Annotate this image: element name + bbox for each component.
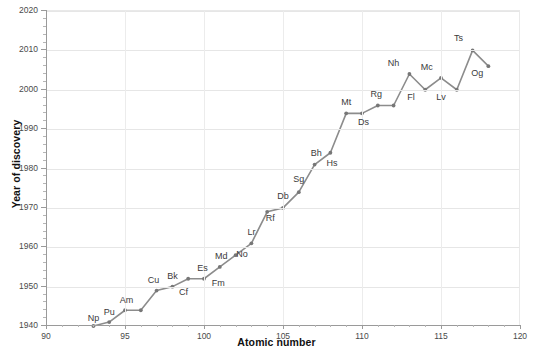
y-tick-minor <box>43 26 46 27</box>
data-point-label: Mt <box>341 97 351 107</box>
y-tick-label: 1970 <box>10 202 38 212</box>
y-tick-minor <box>43 97 46 98</box>
y-tick-minor <box>43 309 46 310</box>
y-tick-minor <box>43 120 46 121</box>
data-point-label: Mc <box>421 62 433 72</box>
x-tick-label: 105 <box>276 331 290 341</box>
y-tick-minor <box>43 183 46 184</box>
y-tick <box>41 49 46 50</box>
x-tick <box>283 325 284 329</box>
x-tick-label: 100 <box>197 331 211 341</box>
data-point-label: Es <box>197 263 208 273</box>
x-tick-minor <box>220 325 221 327</box>
y-tick <box>41 286 46 287</box>
y-tick-minor <box>43 57 46 58</box>
x-tick-minor <box>457 325 458 327</box>
data-point-label: Nh <box>388 58 400 68</box>
data-point-label: Fm <box>212 278 225 288</box>
x-tick-minor <box>172 325 173 327</box>
x-tick <box>204 325 205 329</box>
x-tick-minor <box>330 325 331 327</box>
y-tick-minor <box>43 301 46 302</box>
data-point-label: No <box>236 249 248 259</box>
data-point-marker <box>297 190 301 194</box>
y-tick <box>41 246 46 247</box>
y-tick-minor <box>43 160 46 161</box>
y-tick-minor <box>43 18 46 19</box>
data-point-marker <box>218 265 222 269</box>
x-tick-minor <box>409 325 410 327</box>
data-point-label: Md <box>215 251 228 261</box>
y-tick-label: 1990 <box>10 123 38 133</box>
y-tick-minor <box>43 317 46 318</box>
x-tick-label: 95 <box>120 331 129 341</box>
x-tick-label: 115 <box>434 331 448 341</box>
data-point-label: Ds <box>358 117 369 127</box>
y-tick <box>41 89 46 90</box>
data-point-label: Rf <box>266 213 275 223</box>
x-tick-minor <box>394 325 395 327</box>
data-point-label: Hs <box>326 158 337 168</box>
data-point-label: Og <box>471 68 483 78</box>
data-point-label: Pu <box>104 307 115 317</box>
y-tick <box>41 207 46 208</box>
data-point-label: Lr <box>247 227 255 237</box>
x-tick-label: 120 <box>513 331 527 341</box>
y-tick-minor <box>43 73 46 74</box>
x-tick-minor <box>504 325 505 327</box>
gridline-vertical <box>125 11 126 325</box>
data-point-label: Cu <box>148 275 160 285</box>
data-point-marker <box>107 320 111 324</box>
y-tick-minor <box>43 105 46 106</box>
y-tick-minor <box>43 112 46 113</box>
gridline-vertical <box>362 11 363 325</box>
y-tick-minor <box>43 152 46 153</box>
x-tick-minor <box>473 325 474 327</box>
y-tick-label: 1940 <box>10 320 38 330</box>
x-tick-minor <box>157 325 158 327</box>
data-point-marker <box>487 64 491 68</box>
data-point-marker <box>155 289 159 293</box>
x-tick <box>441 325 442 329</box>
x-tick-minor <box>299 325 300 327</box>
y-axis-line <box>46 10 47 325</box>
y-tick-minor <box>43 294 46 295</box>
data-point-label: Am <box>120 295 134 305</box>
x-tick-minor <box>488 325 489 327</box>
data-point-label: Ts <box>454 33 463 43</box>
y-tick-label: 1950 <box>10 281 38 291</box>
data-point-label: Cf <box>179 287 188 297</box>
x-tick-minor <box>109 325 110 327</box>
y-tick-minor <box>43 81 46 82</box>
y-tick-minor <box>43 231 46 232</box>
x-tick-minor <box>251 325 252 327</box>
y-tick-label: 1960 <box>10 241 38 251</box>
plot-area <box>46 10 520 325</box>
y-tick-label: 2000 <box>10 84 38 94</box>
y-tick-minor <box>43 254 46 255</box>
x-tick-label: 90 <box>41 331 50 341</box>
y-tick-minor <box>43 34 46 35</box>
x-tick-minor <box>93 325 94 327</box>
data-point-marker <box>139 308 143 312</box>
data-point-marker <box>250 241 254 245</box>
y-tick-minor <box>43 262 46 263</box>
data-point-label: Lv <box>436 92 446 102</box>
x-tick-minor <box>425 325 426 327</box>
y-tick-label: 2010 <box>10 44 38 54</box>
y-tick <box>41 168 46 169</box>
gridline-vertical <box>204 11 205 325</box>
data-point-label: Sg <box>293 174 304 184</box>
y-tick-minor <box>43 136 46 137</box>
y-tick-minor <box>43 215 46 216</box>
data-point-label: Bk <box>167 271 178 281</box>
y-tick-minor <box>43 65 46 66</box>
chart-container: Year of discovery Atomic number 19401950… <box>0 0 553 356</box>
data-point-marker <box>408 72 412 76</box>
data-point-marker <box>186 277 190 281</box>
data-point-marker <box>376 104 380 108</box>
y-tick-minor <box>43 199 46 200</box>
y-tick-minor <box>43 42 46 43</box>
x-tick-minor <box>188 325 189 327</box>
data-point-marker <box>344 111 348 115</box>
